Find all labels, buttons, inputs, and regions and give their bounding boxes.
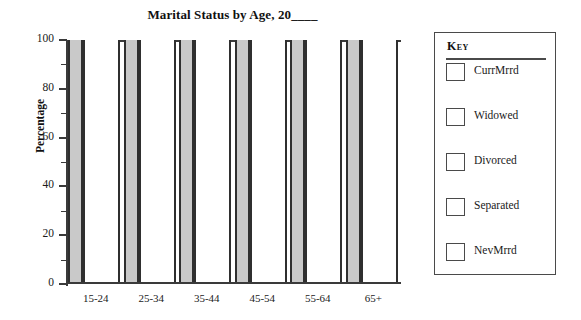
y-axis-tick: [59, 88, 67, 90]
bar-segment-gray[interactable]: [290, 40, 305, 284]
bar-group[interactable]: [346, 40, 402, 284]
y-axis-tick-label: 40: [14, 178, 54, 190]
bar-segment-white[interactable]: [250, 40, 287, 284]
y-axis-minor-tick: [61, 162, 67, 163]
legend-item[interactable]: Widowed: [446, 108, 552, 130]
y-axis-minor-tick: [61, 64, 67, 65]
chart-title: Marital Status by Age, 20____: [60, 7, 405, 23]
legend-item[interactable]: NevMrrd: [446, 243, 552, 265]
legend-box: Key CurrMrrdWidowedDivorcedSeparatedNevM…: [434, 32, 556, 275]
bar-segment-white[interactable]: [305, 40, 342, 284]
y-axis-tick: [59, 234, 67, 236]
y-axis-minor-tick: [61, 113, 67, 114]
bar-segment-white[interactable]: [194, 40, 231, 284]
bar-segment-white[interactable]: [83, 40, 120, 284]
x-axis-tick-label: 65+: [343, 292, 403, 304]
y-axis-tick-label: 100: [14, 32, 54, 44]
chart-figure: Marital Status by Age, 20____ Percentage…: [0, 0, 581, 320]
y-axis-tick: [59, 283, 67, 285]
x-axis-tick-label: 55-64: [288, 292, 348, 304]
bars-layer: [68, 40, 401, 284]
bar-group[interactable]: [179, 40, 235, 284]
bar-segment-gray[interactable]: [68, 40, 83, 284]
legend-swatch-icon: [446, 108, 465, 126]
bar-segment-gray[interactable]: [179, 40, 194, 284]
legend-swatch-icon: [446, 198, 465, 216]
y-axis-tick-label: 60: [14, 130, 54, 142]
legend-item-label: NevMrrd: [474, 244, 517, 256]
legend-swatch-icon: [446, 153, 465, 171]
legend-item[interactable]: Separated: [446, 198, 552, 220]
y-axis-minor-tick: [61, 260, 67, 261]
bar-group[interactable]: [290, 40, 346, 284]
legend-item-label: Widowed: [474, 109, 518, 121]
x-axis-tick-label: 25-34: [121, 292, 181, 304]
y-axis-tick-label: 20: [14, 227, 54, 239]
legend-item-label: Separated: [474, 199, 519, 211]
bar-group[interactable]: [124, 40, 180, 284]
plot-baseline: [68, 282, 401, 284]
y-axis-tick: [59, 39, 67, 41]
bar-segment-white[interactable]: [139, 40, 176, 284]
bar-segment-gray[interactable]: [235, 40, 250, 284]
bar-group[interactable]: [235, 40, 291, 284]
bar-segment-gray[interactable]: [124, 40, 139, 284]
y-axis-tick: [59, 137, 67, 139]
bar-group[interactable]: [68, 40, 124, 284]
bar-segment-gray[interactable]: [346, 40, 361, 284]
legend-title-rule: [446, 58, 546, 60]
legend-item-label: CurrMrrd: [474, 64, 519, 76]
legend-item[interactable]: CurrMrrd: [446, 63, 552, 85]
x-axis-tick-label: 45-54: [232, 292, 292, 304]
bar-segment-white[interactable]: [361, 40, 398, 284]
y-axis-tick: [59, 185, 67, 187]
legend-swatch-icon: [446, 63, 465, 81]
legend-swatch-icon: [446, 243, 465, 261]
y-axis-tick-label: 80: [14, 81, 54, 93]
legend-title: Key: [447, 39, 469, 54]
y-axis-minor-tick: [61, 211, 67, 212]
y-axis-tick-label: 0: [14, 276, 54, 288]
x-axis-tick-label: 15-24: [66, 292, 126, 304]
plot-area: [68, 40, 401, 284]
legend-item-label: Divorced: [474, 154, 517, 166]
legend-item[interactable]: Divorced: [446, 153, 552, 175]
x-axis-tick-label: 35-44: [177, 292, 237, 304]
